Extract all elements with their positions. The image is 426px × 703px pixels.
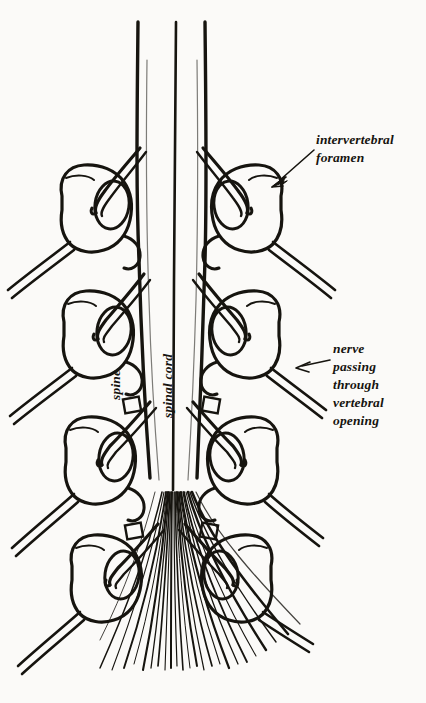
label-spine: spine bbox=[108, 370, 124, 400]
label-nerve-passing-through-vertebral-opening: nerve passing through vertebral opening bbox=[333, 340, 425, 430]
label-spinal-cord: spinal cord bbox=[160, 354, 176, 418]
label-intervertebral-foramen: intervertebral foramen bbox=[316, 131, 424, 167]
anatomical-figure: intervertebral foramen nerve passing thr… bbox=[0, 0, 426, 703]
cauda-filament bbox=[171, 492, 172, 668]
